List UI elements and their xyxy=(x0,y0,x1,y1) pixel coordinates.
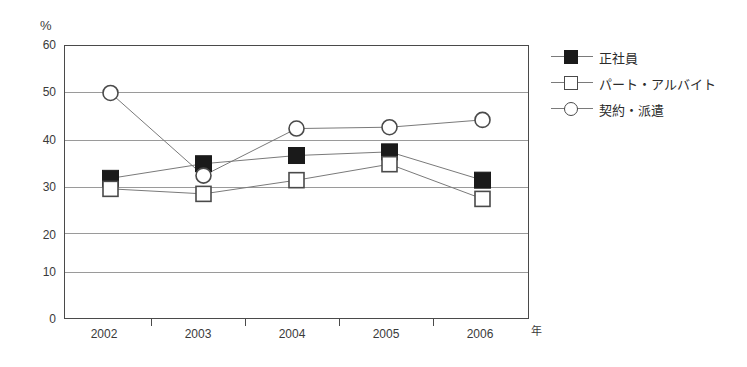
data-point-open-circle-2002 xyxy=(103,85,118,100)
legend-label-regular-employee: 正社員 xyxy=(593,48,638,67)
legend-item-contract-dispatch[interactable]: 契約・派遣 xyxy=(551,96,741,122)
series-markers-group xyxy=(103,85,491,206)
legend-marker-open-square-icon xyxy=(551,73,593,93)
data-point-open-circle-2003 xyxy=(196,168,211,183)
data-point-open-circle-2004 xyxy=(289,121,304,136)
legend-label-part-time: パート・アルバイト xyxy=(593,74,716,93)
legend-label-contract-dispatch: 契約・派遣 xyxy=(593,100,664,119)
data-point-open-square-2004 xyxy=(289,173,304,188)
chart-container: % 60 50 40 30 20 10 0 2002 2003 2004 200… xyxy=(0,0,747,367)
data-point-open-circle-2005 xyxy=(382,120,397,135)
data-point-filled-square-2004 xyxy=(289,148,305,164)
data-point-open-square-2002 xyxy=(103,181,118,196)
data-point-open-square-2005 xyxy=(382,157,397,172)
legend-marker-open-circle-icon xyxy=(551,99,593,119)
data-point-open-circle-2006 xyxy=(475,112,490,127)
legend-item-regular-employee[interactable]: 正社員 xyxy=(551,44,741,70)
legend-item-part-time[interactable]: パート・アルバイト xyxy=(551,70,741,96)
legend-marker-filled-square-icon xyxy=(551,47,593,67)
data-point-open-square-2006 xyxy=(475,191,490,206)
legend: 正社員 パート・アルバイト 契約・派遣 xyxy=(551,44,741,122)
data-point-filled-square-2006 xyxy=(475,172,491,188)
data-point-open-square-2003 xyxy=(196,186,211,201)
